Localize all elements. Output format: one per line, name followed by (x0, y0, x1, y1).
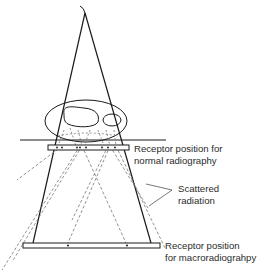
label-receptor-macro-line1: Receptor position (165, 240, 256, 252)
label-scattered-line1: Scattered (178, 183, 219, 195)
label-receptor-macro-line2: for macroradiograhpy (165, 252, 256, 264)
beam-left-edge (33, 13, 85, 243)
focal-spot-icon (80, 6, 85, 13)
diagram-canvas: Receptor position for normal radiography… (0, 0, 260, 272)
label-receptor-normal: Receptor position for normal radiography (134, 143, 223, 167)
label-scattered-radiation: Scattered radiation (178, 183, 219, 207)
beam-right-edge (85, 13, 151, 243)
label-receptor-normal-line2: normal radiography (134, 155, 223, 167)
organ-small (103, 114, 121, 126)
diagram-svg (0, 0, 260, 272)
label-receptor-macro: Receptor position for macroradiograhpy (165, 240, 256, 264)
receptor-macro (23, 243, 160, 248)
scatter-inside-patient (58, 128, 118, 146)
scattered-leader-lines (146, 184, 172, 206)
receptor-normal (48, 145, 129, 150)
label-receptor-normal-line1: Receptor position for (134, 143, 223, 155)
organ-large (64, 107, 99, 127)
label-scattered-line2: radiation (178, 195, 219, 207)
